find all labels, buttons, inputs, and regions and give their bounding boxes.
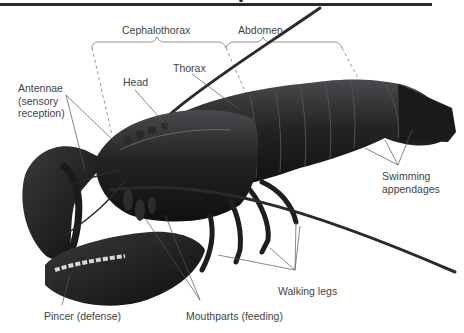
- label-thorax: Thorax: [173, 62, 206, 75]
- label-mouthparts: Mouthparts (feeding): [186, 310, 283, 323]
- tail-fan: [398, 84, 456, 142]
- label-walking-legs: Walking legs: [278, 285, 337, 298]
- abdomen-bracket: [226, 37, 342, 48]
- cephalothorax-bracket: [92, 37, 226, 48]
- label-head: Head: [123, 76, 148, 89]
- label-swimming-appendages: Swimming appendages: [382, 170, 440, 195]
- label-antennae: Antennae (sensory reception): [18, 82, 65, 120]
- lobster-illustration: [0, 0, 464, 333]
- label-abdomen: Abdomen: [238, 24, 283, 37]
- label-pincer: Pincer (defense): [44, 310, 121, 323]
- label-cephalothorax: Cephalothorax: [122, 24, 190, 37]
